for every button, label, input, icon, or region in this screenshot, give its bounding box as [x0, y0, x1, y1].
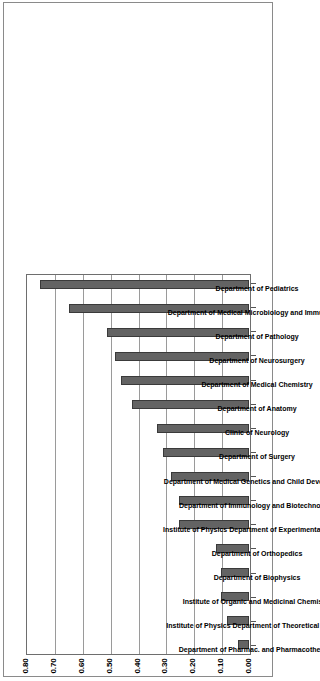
category-label: Department of Surgery [219, 453, 278, 462]
category-label-slot: Institute of Physics Department of Theor… [257, 617, 273, 626]
category-label-slot: Department of Anatomy [257, 400, 273, 409]
bar-chart: 0.000.100.200.300.400.500.600.700.80 Dep… [3, 2, 273, 677]
value-axis-label: 0.30 [160, 655, 170, 677]
category-label: Department of Medical Chemistry [201, 380, 278, 389]
category-label: Department of Pathology [215, 332, 278, 341]
category-label: Department of Biophysics [214, 573, 278, 582]
category-label: Institute of Organic and Medicinal Chemi… [183, 597, 278, 606]
category-label-slot: Department of Biophysics [257, 569, 273, 578]
category-label-slot: Clinic of Neurology [257, 424, 273, 433]
category-label: Department of Pharmac. and Pharmacothera… [179, 646, 278, 655]
value-axis-label: 0.00 [244, 655, 254, 677]
category-label: Department of Medical Genetics and Child… [164, 477, 278, 486]
value-axis-label: 0.80 [21, 655, 31, 677]
category-label-slot: Institute of Organic and Medicinal Chemi… [257, 593, 273, 602]
value-axis: 0.000.100.200.300.400.500.600.700.80 [26, 655, 251, 677]
category-label: Department of Neurosurgery [209, 356, 278, 365]
value-axis-label: 0.40 [133, 655, 143, 677]
category-label-slot: Department of Pharmac. and Pharmacothera… [257, 641, 273, 650]
category-label-slot: Department of Neurosurgery [257, 352, 273, 361]
chart-rotation-stage: 0.000.100.200.300.400.500.600.700.80 Dep… [3, 2, 273, 677]
category-label: Department of Immunology and Biotechnolo… [179, 501, 278, 510]
category-label: Department of Medical Microbiology and I… [168, 308, 278, 317]
category-label-slot: Department of Pathology [257, 327, 273, 336]
category-label-slot: Department of Orthopedics [257, 545, 273, 554]
category-label-slot: Department of Pediatrics [257, 279, 273, 288]
value-axis-label: 0.50 [105, 655, 115, 677]
category-label: Department of Orthopedics [212, 549, 278, 558]
category-label-slot: Department of Medical Chemistry [257, 376, 273, 385]
category-label-slot: Department of Medical Microbiology and I… [257, 303, 273, 312]
category-label-slot: Department of Surgery [257, 448, 273, 457]
category-axis: Department of Pharmac. and Pharmacothera… [257, 275, 273, 654]
value-axis-label: 0.60 [77, 655, 87, 677]
value-axis-label: 0.70 [49, 655, 59, 677]
value-axis-label: 0.20 [188, 655, 198, 677]
category-label: Clinic of Neurology [225, 428, 278, 437]
value-axis-label: 0.10 [216, 655, 226, 677]
category-label: Department of Anatomy [217, 404, 278, 413]
category-label-slot: Department of Medical Genetics and Child… [257, 472, 273, 481]
category-label: Institute of Physics Department of Exper… [163, 525, 278, 534]
category-label: Department of Pediatrics [216, 284, 278, 293]
category-label: Institute of Physics Department of Theor… [166, 621, 278, 630]
category-label-slot: Department of Immunology and Biotechnolo… [257, 496, 273, 505]
category-label-slot: Institute of Physics Department of Exper… [257, 520, 273, 529]
